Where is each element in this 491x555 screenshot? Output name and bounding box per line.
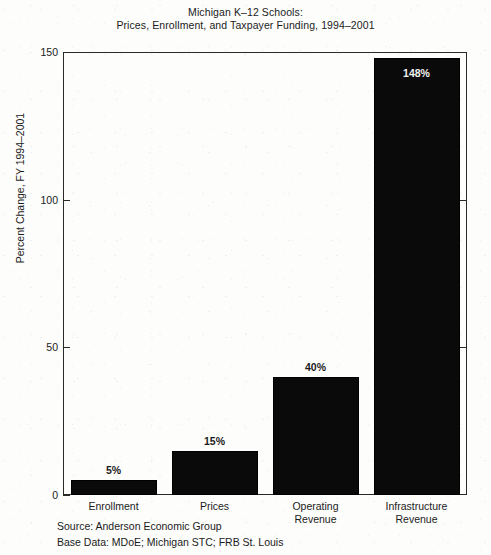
x-axis-label-line: Infrastructure <box>366 500 467 513</box>
x-axis-label-line: Operating <box>265 500 366 513</box>
chart-title-line-1: Michigan K–12 Schools: <box>0 6 491 19</box>
y-axis-title: Percent Change, FY 1994–2001 <box>14 108 26 268</box>
x-axis-label-line: Prices <box>164 500 265 513</box>
x-axis-label: Enrollment <box>63 500 164 513</box>
x-axis-label-line: Revenue <box>366 513 467 526</box>
bar <box>273 377 359 495</box>
bar <box>374 58 460 495</box>
footnote-base-data: Base Data: MDoE; Michigan STC; FRB St. L… <box>57 534 283 550</box>
chart-title-line-2: Prices, Enrollment, and Taxpayer Funding… <box>0 19 491 32</box>
x-axis-label: Prices <box>164 500 265 513</box>
footnote-source: Source: Anderson Economic Group <box>57 518 283 534</box>
footnote-block: Source: Anderson Economic Group Base Dat… <box>57 518 283 550</box>
y-tick-label: 150 <box>0 46 58 58</box>
y-tick-label: 50 <box>0 341 58 353</box>
bar <box>172 451 258 495</box>
bar <box>71 480 157 495</box>
chart-page: Michigan K–12 Schools: Prices, Enrollmen… <box>0 0 491 555</box>
x-axis-label-line: Enrollment <box>63 500 164 513</box>
y-tick-label: 100 <box>0 194 58 206</box>
chart-title: Michigan K–12 Schools: Prices, Enrollmen… <box>0 6 491 32</box>
y-tick-mark <box>63 495 70 496</box>
bar-value-label: 148% <box>374 67 460 79</box>
plot-area: 5%15%40%148% <box>63 52 467 495</box>
bar-value-label: 40% <box>273 361 359 373</box>
bar-value-label: 5% <box>71 464 157 476</box>
y-tick-label: 0 <box>0 489 58 501</box>
bar-value-label: 15% <box>172 435 258 447</box>
x-axis-label: InfrastructureRevenue <box>366 500 467 526</box>
